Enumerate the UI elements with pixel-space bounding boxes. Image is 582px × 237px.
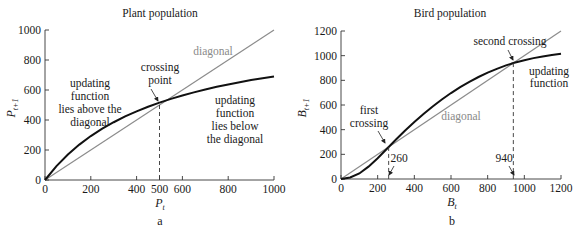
svg-text:400: 400 [406, 182, 424, 194]
svg-text:400: 400 [320, 124, 338, 136]
chart-b-title: Bird population [414, 7, 487, 20]
chart-a-y-axis-label: Pt+1 [4, 99, 20, 119]
svg-text:600: 600 [24, 84, 42, 96]
chart-a-crossing-label-2: point [148, 74, 172, 87]
svg-text:0: 0 [338, 182, 344, 194]
chart-a-above-label-1: updating [70, 77, 110, 90]
svg-text:500: 500 [151, 183, 169, 195]
chart-a-diagonal-label: diagonal [193, 45, 233, 58]
chart-b-updating-label-2: function [530, 77, 569, 89]
chart-b-diagonal-label: diagonal [441, 110, 481, 123]
chart-a-below-label-2: function [216, 107, 255, 119]
chart-a-crossing-label-1: crossing [141, 61, 180, 74]
chart-b-x-axis-label: Bt [447, 195, 457, 211]
svg-text:0: 0 [35, 174, 41, 186]
svg-text:200: 200 [24, 144, 42, 156]
chart-b-second-crossing-arrow-icon [508, 50, 513, 60]
svg-text:1200: 1200 [314, 25, 337, 37]
svg-text:200: 200 [82, 183, 100, 195]
chart-b-x2-label: 940 [495, 152, 513, 164]
chart-a-below-label-1: updating [215, 94, 255, 107]
svg-text:400: 400 [128, 183, 146, 195]
svg-text:600: 600 [320, 99, 338, 111]
chart-b-x1-label: 260 [390, 152, 408, 164]
chart-a-above-label-2: function [71, 90, 110, 102]
chart-a-above-label-4: diagonal [70, 116, 110, 129]
svg-text:1200: 1200 [550, 182, 573, 194]
chart-a-title: Plant population [122, 7, 198, 20]
svg-text:400: 400 [24, 114, 42, 126]
svg-text:1000: 1000 [18, 24, 41, 36]
chart-a-x-axis-label: Pt [154, 196, 165, 212]
chart-b-second-crossing-label: second crossing [473, 35, 546, 48]
chart-a-above-label-3: lies above the [58, 103, 121, 115]
svg-text:800: 800 [24, 54, 42, 66]
svg-text:800: 800 [479, 182, 497, 194]
chart-b: Bird population 020040060080010001200020… [295, 7, 573, 228]
svg-text:0: 0 [42, 183, 48, 195]
svg-text:1000: 1000 [263, 183, 286, 195]
chart-b-first-crossing-label-2: crossing [350, 117, 389, 130]
svg-text:1000: 1000 [513, 182, 536, 194]
svg-text:0: 0 [331, 173, 337, 185]
chart-b-first-crossing-label-1: first [360, 104, 379, 116]
chart-a-below-label-4: the diagonal [207, 133, 264, 146]
chart-a: Plant population 02004005006008001000020… [4, 7, 286, 228]
chart-b-y-axis-label: Bt+1 [295, 99, 311, 118]
svg-text:1000: 1000 [314, 50, 337, 62]
svg-text:600: 600 [442, 182, 460, 194]
chart-a-crossing-arrow-icon [151, 89, 158, 101]
chart-a-panel-label: a [157, 214, 163, 228]
chart-b-first-crossing-arrow-icon [378, 131, 385, 143]
svg-text:800: 800 [220, 183, 238, 195]
chart-a-below-label-3: lies below [212, 120, 260, 132]
svg-text:200: 200 [320, 148, 338, 160]
svg-text:200: 200 [369, 182, 387, 194]
chart-b-panel-label: b [449, 214, 455, 228]
figure: Plant population 02004005006008001000020… [0, 0, 582, 237]
svg-text:800: 800 [320, 74, 338, 86]
chart-b-x1-arrow-icon [389, 166, 394, 175]
svg-text:600: 600 [174, 183, 192, 195]
